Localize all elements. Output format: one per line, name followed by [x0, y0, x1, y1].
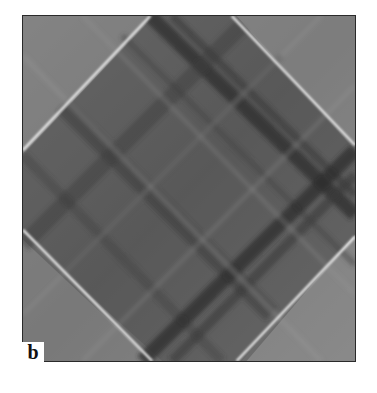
figure-panel-image [22, 15, 356, 362]
diagonal-band-pattern [23, 16, 355, 361]
panel-label: b [22, 342, 44, 362]
